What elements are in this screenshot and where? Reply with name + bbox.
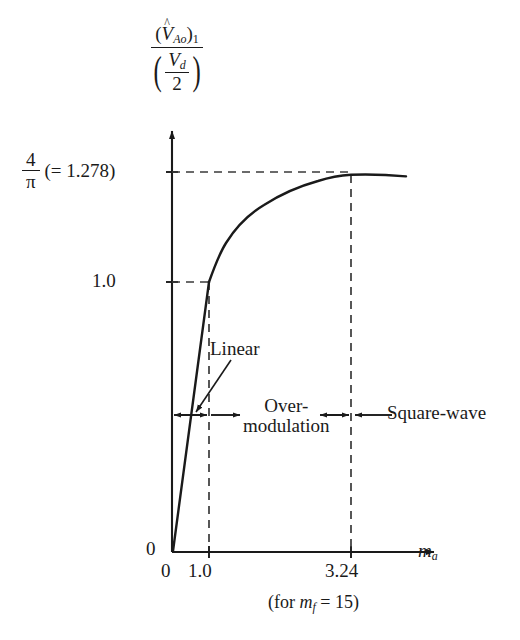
figure-pwm-characteristic: (^VAo)1 ( Vd 2 ) 4 π (= 1.278) 1.0 0 0 1… (0, 0, 520, 640)
region-label-linear: Linear (210, 338, 260, 360)
x-tick-label-324: 3.24 (325, 560, 358, 582)
paren-left: ( (153, 55, 161, 88)
y-tick-note-1278: (= 1.278) (45, 160, 116, 182)
y-axis-label-denominator: ( Vd 2 ) (112, 48, 242, 93)
region-label-square-wave: Square-wave (387, 402, 486, 424)
chart-canvas (0, 0, 520, 640)
y-axis-label-numerator: (^VAo)1 (151, 24, 203, 48)
y-axis-label: (^VAo)1 ( Vd 2 ) (112, 24, 242, 93)
tick-marks (166, 172, 351, 558)
y-tick-label-0: 0 (146, 538, 156, 560)
curve-linear-segment (173, 282, 209, 551)
region-label-overmodulation-line1: Over- (243, 396, 330, 416)
paren-right: ) (192, 55, 200, 88)
region-label-overmodulation-line2: modulation (243, 416, 330, 436)
curve-saturation-segment (209, 175, 406, 282)
curve-series-fundamental-ratio (173, 175, 406, 551)
y-tick-label-10: 1.0 (92, 270, 116, 292)
linear-leader-arrow (196, 360, 231, 412)
figure-caption: (for mf = 15) (268, 592, 359, 615)
x-axis-label: ma (418, 540, 438, 564)
x-tick-label-0: 0 (161, 560, 171, 582)
region-label-overmodulation: Over- modulation (243, 396, 330, 436)
x-tick-label-10: 1.0 (188, 560, 212, 582)
y-tick-label-1278: 4 π (= 1.278) (22, 150, 115, 191)
